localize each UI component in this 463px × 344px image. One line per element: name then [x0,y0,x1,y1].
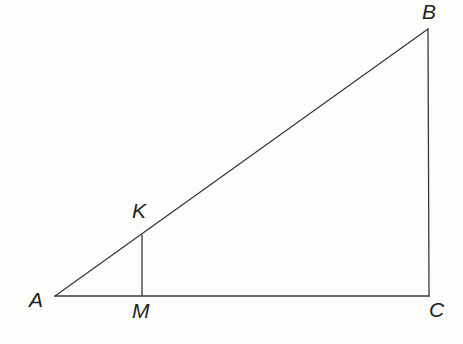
vertex-label-k: K [132,200,146,221]
vertex-label-a: A [29,289,43,310]
vertex-label-c: C [429,299,444,320]
geometry-figure: A B C K M [0,0,463,344]
vertex-label-m: M [132,300,150,321]
segment-ab-hypotenuse [55,29,428,296]
vertex-label-b: B [422,1,436,22]
segment-bc-vertical-leg [428,29,429,296]
diagram-canvas [0,0,463,344]
